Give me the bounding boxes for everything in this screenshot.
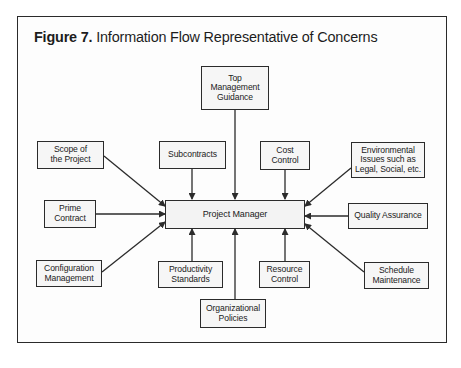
node-label: Scope of the Project: [51, 145, 91, 164]
node-label: Configuration Management: [44, 264, 94, 283]
node-label: Productivity Standards: [169, 265, 212, 284]
arrow-environmental: [305, 168, 351, 206]
environmental-issues-box: Environmental Issues such as Legal, Soci…: [351, 142, 425, 178]
node-label: Top Management Guidance: [210, 74, 259, 103]
organizational-policies-box: Organizational Policies: [200, 299, 266, 328]
scope-of-the-project-box: Scope of the Project: [37, 141, 104, 169]
configuration-management-box: Configuration Management: [36, 260, 102, 287]
prime-contract-box: Prime Contract: [44, 200, 96, 228]
node-label: Subcontracts: [168, 150, 217, 160]
node-label: Schedule Maintenance: [372, 266, 420, 285]
arrow-scope: [104, 156, 165, 206]
subcontracts-box: Subcontracts: [159, 141, 226, 169]
project-manager-label: Project Manager: [203, 210, 268, 220]
quality-assurance-box: Quality Assurance: [348, 203, 428, 229]
schedule-maintenance-box: Schedule Maintenance: [364, 262, 429, 289]
node-label: Resource Control: [267, 265, 303, 284]
cost-control-box: Cost Control: [260, 141, 310, 170]
node-label: Cost Control: [271, 146, 298, 165]
node-label: Prime Contract: [54, 204, 86, 223]
resource-control-box: Resource Control: [259, 261, 310, 288]
top-management-guidance-box: Top Management Guidance: [201, 66, 269, 110]
arrow-configuration: [102, 222, 165, 272]
node-label: Organizational Policies: [206, 304, 260, 323]
arrow-schedule: [305, 224, 364, 272]
node-label: Environmental Issues such as Legal, Soci…: [355, 146, 421, 175]
productivity-standards-box: Productivity Standards: [158, 261, 223, 288]
project-manager-box: Project Manager: [165, 200, 305, 229]
cut-off-text-line: [25, 362, 195, 368]
node-label: Quality Assurance: [354, 211, 422, 221]
